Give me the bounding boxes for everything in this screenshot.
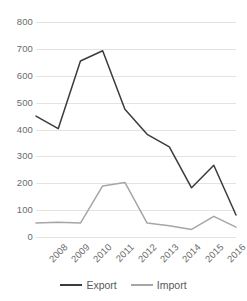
legend-label: Import (157, 280, 187, 291)
y-tick-label: 600 (3, 71, 33, 81)
x-tick-label: 2008 (47, 242, 69, 264)
x-tick-label: 2016 (225, 242, 247, 264)
y-tick-label: 100 (3, 205, 33, 215)
x-tick-label: 2014 (181, 242, 203, 264)
x-axis: 2008200920102011201220132014201520162017 (0, 240, 247, 280)
series-line-export (36, 51, 236, 215)
y-tick-label: 500 (3, 98, 33, 108)
y-tick-label: 300 (3, 151, 33, 161)
legend-swatch-icon (131, 284, 153, 286)
legend-item-import[interactable]: Import (131, 280, 187, 291)
y-tick-label: 800 (3, 17, 33, 27)
x-tick-label: 2012 (136, 242, 158, 264)
chart-legend: ExportImport (0, 277, 247, 293)
x-tick-label: 2013 (158, 242, 180, 264)
y-tick-label: 200 (3, 178, 33, 188)
series-line-import (36, 182, 236, 229)
plot-area (36, 22, 236, 237)
x-tick-label: 2010 (92, 242, 114, 264)
x-tick-label: 2011 (114, 242, 136, 264)
legend-swatch-icon (60, 284, 82, 286)
legend-item-export[interactable]: Export (60, 280, 116, 291)
y-tick-label: 700 (3, 44, 33, 54)
gridline (36, 237, 236, 238)
x-tick-label: 2015 (203, 242, 225, 264)
y-tick-label: 400 (3, 125, 33, 135)
legend-label: Export (86, 280, 116, 291)
x-tick-label: 2009 (70, 242, 92, 264)
line-chart: 0100200300400500600700800 20082009201020… (0, 0, 247, 301)
series-lines (36, 22, 236, 237)
